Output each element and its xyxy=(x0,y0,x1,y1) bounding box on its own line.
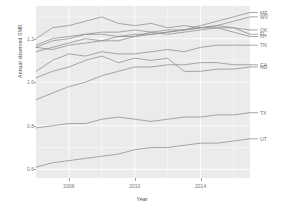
y-tick-label: 1.2 xyxy=(12,36,34,42)
plot-lines xyxy=(36,6,250,178)
x-tick-mark xyxy=(135,178,136,181)
y-tick-label: 1.0 xyxy=(12,79,34,85)
series-line-ut xyxy=(36,139,250,167)
y-tick-label: 0.8 xyxy=(12,123,34,129)
x-tick-label: 2006 xyxy=(63,183,74,189)
y-tick-label: 0.6 xyxy=(12,166,34,172)
y-axis-tick-labels: 0.60.81.01.2 xyxy=(8,0,34,210)
series-line-ca xyxy=(36,63,250,100)
series-label-tx: TX xyxy=(260,110,267,116)
series-label-ny: NY xyxy=(260,33,267,39)
chart-figure: Annual observed SMR 0.60.81.01.2 Year ME… xyxy=(0,0,284,210)
x-tick-mark xyxy=(69,178,70,181)
y-tick-mark xyxy=(34,39,37,40)
y-tick-mark xyxy=(34,126,37,127)
x-tick-label: 2014 xyxy=(195,183,206,189)
x-tick-mark xyxy=(201,178,202,181)
series-label-wv: WV xyxy=(260,14,268,20)
series-label-tn: TN xyxy=(260,42,267,48)
y-tick-mark xyxy=(34,82,37,83)
plot-panel xyxy=(36,6,250,178)
x-tick-label: 2010 xyxy=(129,183,140,189)
series-label-ut: UT xyxy=(260,136,267,142)
x-axis-title: Year xyxy=(0,196,284,202)
y-tick-mark xyxy=(34,169,37,170)
series-label-ca: CA xyxy=(260,62,267,68)
